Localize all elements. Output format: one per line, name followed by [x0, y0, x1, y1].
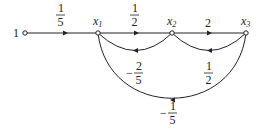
svg-text:1: 1: [170, 99, 176, 113]
svg-text:5: 5: [58, 15, 64, 29]
svg-text:1: 1: [132, 1, 138, 15]
arrow-right-icon: [63, 31, 68, 36]
gain-x3-x1: − 1 5: [160, 99, 177, 127]
svg-text:2: 2: [206, 73, 212, 87]
arrow-right-icon: [207, 31, 212, 36]
svg-text:−: −: [160, 106, 167, 120]
edge-x3-x1: [98, 33, 246, 98]
arrow-right-icon: [134, 31, 139, 36]
node-input: [23, 31, 27, 35]
gain-x1-x2: 1 2: [130, 1, 139, 29]
svg-text:1: 1: [58, 1, 64, 15]
svg-text:1: 1: [206, 59, 212, 73]
x1-label: x1: [92, 14, 102, 29]
node-x2: [170, 31, 174, 35]
x3-label: x3: [240, 14, 250, 29]
svg-text:5: 5: [136, 73, 142, 87]
x2-label: x2: [166, 14, 176, 29]
svg-text:5: 5: [170, 113, 176, 127]
svg-text:−: −: [126, 66, 133, 80]
svg-text:2: 2: [136, 59, 142, 73]
gain-input-x1: 1 5: [56, 1, 65, 29]
gain-x2-x3: 2: [205, 16, 211, 30]
signal-flow-graph: 1 x1 x2 x3 1 5 1 2 2 − 2 5 1 2 − 1 5: [0, 0, 263, 134]
input-label: 1: [13, 26, 19, 40]
edge-x3-x2: [172, 33, 246, 51]
arrow-left-icon: [133, 48, 138, 53]
gain-x3-x2: 1 2: [204, 59, 213, 87]
edge-x2-x1: [98, 33, 172, 51]
arrow-left-icon: [207, 48, 212, 53]
gain-x2-x1: − 2 5: [126, 59, 143, 87]
node-x1: [96, 31, 100, 35]
svg-text:2: 2: [132, 15, 138, 29]
node-x3: [244, 31, 248, 35]
